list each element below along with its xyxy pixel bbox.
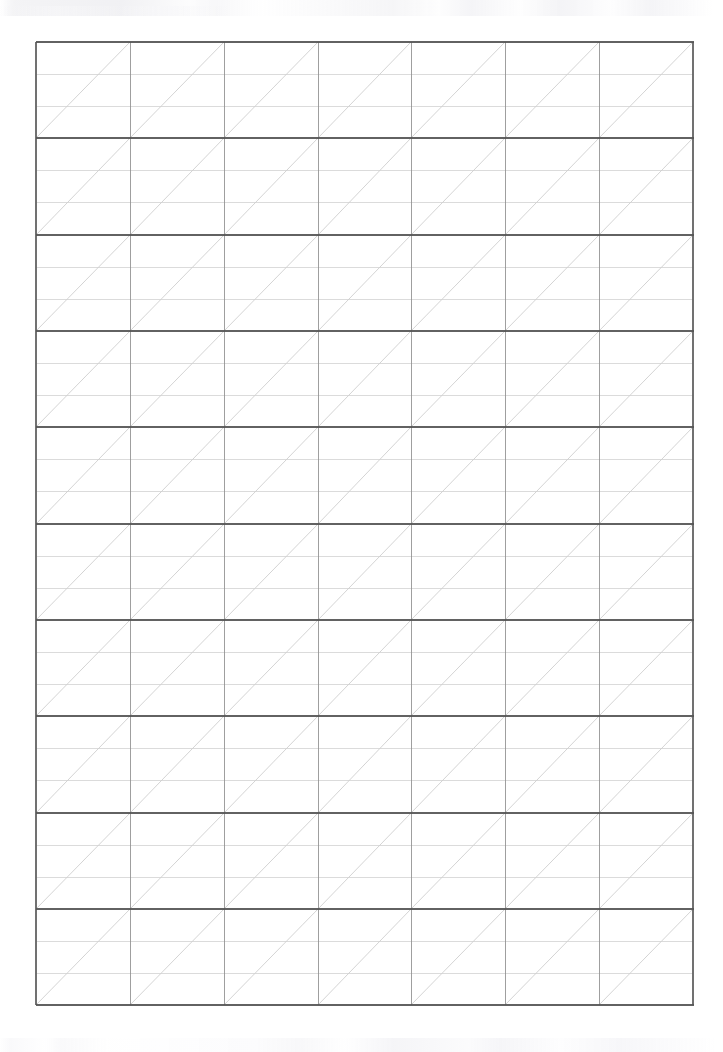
grid-diagonal bbox=[130, 138, 224, 235]
grid-diagonal bbox=[599, 138, 693, 235]
grid-diagonal bbox=[36, 138, 130, 235]
grid-diagonal bbox=[505, 909, 599, 1005]
grid-diagonal bbox=[505, 620, 599, 716]
grid-diagonal bbox=[36, 716, 130, 813]
grid-diagonal bbox=[318, 620, 411, 716]
grid-diagonal bbox=[130, 235, 224, 331]
grid-diagonal bbox=[130, 909, 224, 1005]
grid-diagonal bbox=[36, 427, 130, 524]
grid-diagonal bbox=[599, 620, 693, 716]
grid-diagonal bbox=[130, 427, 224, 524]
grid-diagonal bbox=[130, 331, 224, 427]
grid-diagonal bbox=[411, 42, 505, 138]
grid-diagonal bbox=[318, 524, 411, 620]
grid-diagonal bbox=[599, 427, 693, 524]
grid-diagonal bbox=[224, 235, 318, 331]
grid-diagonal bbox=[36, 813, 130, 909]
grid-diagonal bbox=[411, 813, 505, 909]
grid-diagonal bbox=[318, 716, 411, 813]
grid-diagonal bbox=[36, 235, 130, 331]
grid-diagonal bbox=[599, 813, 693, 909]
grid-diagonal bbox=[36, 909, 130, 1005]
grid-diagonal bbox=[318, 138, 411, 235]
grid-diagonal bbox=[224, 813, 318, 909]
grid-diagonal bbox=[224, 427, 318, 524]
grid-diagonal bbox=[599, 235, 693, 331]
grid-diagonal bbox=[224, 716, 318, 813]
grid-diagonal bbox=[318, 331, 411, 427]
grid-diagonal bbox=[599, 909, 693, 1005]
grid-diagonal bbox=[411, 235, 505, 331]
grid-diagonal bbox=[130, 620, 224, 716]
grid-diagonal bbox=[599, 524, 693, 620]
grid-diagonal bbox=[318, 813, 411, 909]
grid-diagonal bbox=[411, 909, 505, 1005]
grid-diagonal bbox=[411, 138, 505, 235]
grid-diagonal bbox=[224, 524, 318, 620]
grid-diagonal bbox=[505, 427, 599, 524]
grid-diagonal bbox=[36, 42, 130, 138]
grid-diagonal bbox=[411, 620, 505, 716]
grid-diagonal bbox=[224, 909, 318, 1005]
grid-diagonal bbox=[36, 620, 130, 716]
grid-diagonal bbox=[505, 716, 599, 813]
grid-diagonal bbox=[505, 235, 599, 331]
grid-diagonal bbox=[318, 235, 411, 331]
ruled-grid bbox=[0, 0, 723, 1052]
grid-diagonal bbox=[505, 331, 599, 427]
grid-diagonal bbox=[224, 331, 318, 427]
grid-diagonal bbox=[599, 716, 693, 813]
grid-diagonal bbox=[130, 813, 224, 909]
grid-diagonal bbox=[224, 42, 318, 138]
grid-diagonal bbox=[599, 42, 693, 138]
grid-diagonal bbox=[411, 427, 505, 524]
grid-diagonal bbox=[505, 42, 599, 138]
grid-diagonal bbox=[224, 138, 318, 235]
grid-diagonal bbox=[411, 524, 505, 620]
grid-diagonal bbox=[130, 524, 224, 620]
grid-diagonal bbox=[318, 42, 411, 138]
grid-diagonal bbox=[505, 524, 599, 620]
grid-diagonal bbox=[599, 331, 693, 427]
grid-diagonal bbox=[505, 813, 599, 909]
grid-diagonal bbox=[505, 138, 599, 235]
grid-diagonal bbox=[130, 42, 224, 138]
grid-diagonal bbox=[318, 909, 411, 1005]
scanned-page bbox=[0, 0, 723, 1052]
grid-diagonal bbox=[411, 716, 505, 813]
grid-diagonal bbox=[36, 524, 130, 620]
grid-diagonal bbox=[411, 331, 505, 427]
grid-diagonal bbox=[36, 331, 130, 427]
grid-diagonal bbox=[224, 620, 318, 716]
grid-diagonal bbox=[318, 427, 411, 524]
grid-diagonal bbox=[130, 716, 224, 813]
